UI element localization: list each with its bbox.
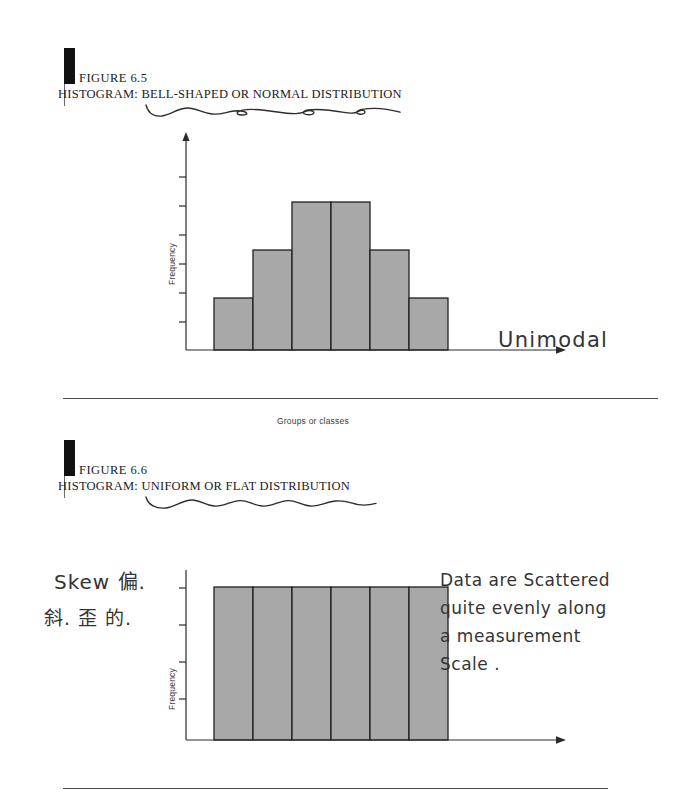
x-axis-arrowhead [556,736,566,744]
section-separator-bottom [63,788,608,789]
y-axis-label: Frequency [167,668,177,710]
histogram-bars [214,587,448,740]
handwritten-margin-note-line-2: 斜. 歪 的. [44,603,132,630]
handdrawn-underline-squiggle [144,493,379,513]
handwritten-margin-note-line-1: Skew 偏. [54,566,146,595]
y-axis-label: Frequency [167,243,177,285]
handwritten-line-1: Data are Scattered [440,570,610,590]
y-axis-ticks [179,177,186,322]
y-axis [179,570,186,740]
bar-2 [253,587,292,740]
figure-title: HISTOGRAM: UNIFORM OR FLAT DISTRIBUTION [58,479,350,494]
bar-3 [292,202,331,350]
y-axis [179,132,190,350]
y-axis-arrowhead [182,132,189,141]
handwritten-line-4: Scale . [440,654,500,674]
bar-2 [253,250,292,350]
bar-4 [331,202,370,350]
x-axis-label: Groups or classes [277,416,349,426]
bar-5 [370,250,409,350]
section-separator-top [63,398,658,399]
figure-marker-bar [64,48,75,84]
handdrawn-underline-squiggle [144,101,404,121]
histogram-bars [214,202,448,350]
y-axis-ticks [179,588,186,699]
figure-marker-bar [64,440,75,476]
handwritten-annotation-unimodal: Unimodal [498,328,608,352]
bar-5 [370,587,409,740]
bar-3 [292,587,331,740]
bar-1 [214,587,253,740]
figure-block-6-5: FIGURE 6.5 HISTOGRAM: BELL-SHAPED OR NOR… [58,48,658,393]
bar-1 [214,298,253,350]
figure-number: FIGURE 6.6 [79,463,147,478]
handwritten-line-2: quite evenly along [440,598,607,618]
bar-6 [409,298,448,350]
handwritten-line-3: a measurement [440,626,581,646]
document-page: FIGURE 6.5 HISTOGRAM: BELL-SHAPED OR NOR… [0,0,681,802]
figure-block-6-6: FIGURE 6.6 HISTOGRAM: UNIFORM OR FLAT DI… [58,440,658,770]
figure-number: FIGURE 6.5 [79,71,147,86]
figure-title: HISTOGRAM: BELL-SHAPED OR NORMAL DISTRIB… [58,87,402,102]
bar-4 [331,587,370,740]
